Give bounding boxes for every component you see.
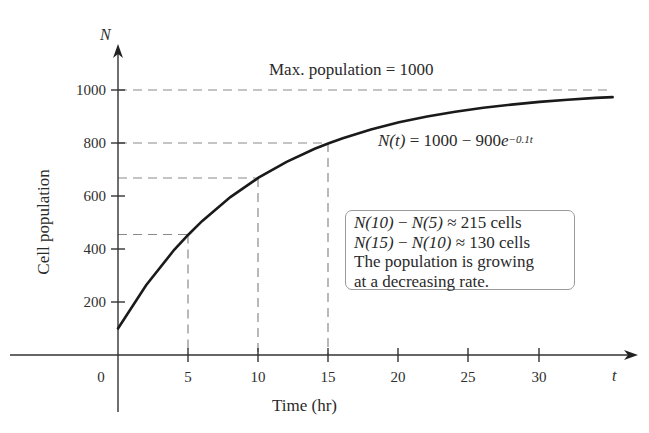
x-tick-15: 15 [321, 369, 336, 385]
max-population-label: Max. population = 1000 [269, 60, 433, 80]
x-tick-20: 20 [391, 369, 406, 385]
y-axis-letter-n: N [99, 26, 112, 43]
eq-lhs: N(t) [378, 131, 405, 150]
y-tick-400: 400 [84, 241, 107, 257]
note-op: − [394, 213, 412, 232]
y-tick-800: 800 [84, 135, 107, 151]
note-line-4: at a decreasing rate. [354, 272, 574, 292]
eq-e: e [501, 131, 509, 150]
x-axis-letter-t: t [612, 367, 617, 384]
note-result: ≈ 215 cells [443, 213, 522, 232]
origin-label: 0 [97, 369, 105, 385]
y-tick-1000: 1000 [76, 82, 106, 98]
y-axis-label: Cell population [34, 169, 54, 274]
note-term: N(5) [412, 213, 443, 232]
x-tick-5: 5 [184, 369, 192, 385]
note-line-1: N(10) − N(5) ≈ 215 cells [354, 213, 574, 233]
note-line-3: The population is growing [354, 252, 574, 272]
note-op: − [394, 233, 412, 252]
note-result: ≈ 130 cells [451, 233, 530, 252]
note-line-2: N(15) − N(10) ≈ 130 cells [354, 233, 574, 253]
x-tick-25: 25 [461, 369, 476, 385]
y-tick-600: 600 [84, 188, 107, 204]
note-term: N(15) [354, 233, 394, 252]
annotation-box: N(10) − N(5) ≈ 215 cells N(15) − N(10) ≈… [345, 210, 575, 290]
note-term: N(10) [412, 233, 452, 252]
x-tick-10: 10 [251, 369, 266, 385]
eq-exponent: −0.1t [509, 133, 533, 145]
note-term: N(10) [354, 213, 394, 232]
function-equation: N(t) = 1000 − 900e−0.1t [378, 131, 533, 151]
x-tick-30: 30 [532, 369, 547, 385]
y-tick-200: 200 [84, 294, 107, 310]
eq-mid: = 1000 − 900 [405, 131, 501, 150]
x-axis-label: Time (hr) [272, 396, 337, 416]
